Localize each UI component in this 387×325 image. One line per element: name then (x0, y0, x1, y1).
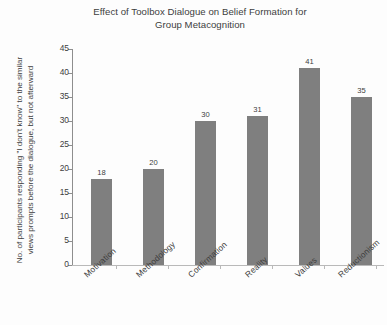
y-tick-label: 40 (60, 67, 69, 77)
y-axis-title: No. of participants responding "I don't … (14, 40, 40, 280)
bar-reality[interactable]: 31 (247, 116, 268, 265)
x-axis-line (72, 265, 384, 266)
y-axis-title-line-1: No. of participants responding "I don't … (14, 40, 25, 280)
bar-values[interactable]: 41 (299, 68, 320, 265)
y-axis-line (72, 49, 73, 265)
x-tick (324, 266, 325, 269)
x-tick (376, 266, 377, 269)
chart-title-line-2: Group Metacognition (40, 19, 360, 32)
y-tick-label: 45 (60, 43, 69, 53)
bar-chart-figure: Effect of Toolbox Dialogue on Belief For… (0, 0, 387, 325)
y-tick-label: 5 (64, 235, 69, 245)
x-tick (116, 266, 117, 269)
y-tick-label: 10 (60, 211, 69, 221)
y-tick-label: 15 (60, 187, 69, 197)
y-tick-label: 25 (60, 139, 69, 149)
bar-value-label: 20 (149, 158, 157, 167)
bar-value-label: 31 (253, 105, 261, 114)
bar-reductionism[interactable]: 35 (351, 97, 372, 265)
x-tick (272, 266, 273, 269)
y-tick-label: 0 (64, 259, 69, 269)
y-tick-label: 30 (60, 115, 69, 125)
x-tick (220, 266, 221, 269)
chart-title-line-1: Effect of Toolbox Dialogue on Belief For… (40, 6, 360, 19)
plot-area: 45 40 35 30 25 20 15 10 (72, 45, 385, 269)
bar-value-label: 18 (97, 168, 105, 177)
bar-confirmation[interactable]: 30 (195, 121, 216, 265)
bar-value-label: 41 (305, 57, 313, 66)
x-tick (168, 266, 169, 269)
y-tick-label: 35 (60, 91, 69, 101)
bar-value-label: 35 (357, 86, 365, 95)
y-axis-title-line-2: views prompts before the dialogue, but n… (25, 40, 36, 280)
chart-title: Effect of Toolbox Dialogue on Belief For… (40, 6, 360, 31)
y-tick-label: 20 (60, 163, 69, 173)
bar-value-label: 30 (201, 110, 209, 119)
